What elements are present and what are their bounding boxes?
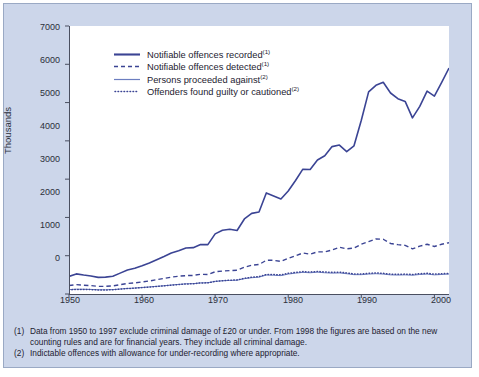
footnote-1-marker: (1) (14, 326, 30, 347)
y-tick-3000: 3000 (18, 155, 60, 164)
legend-item-offenders-guilty: Offenders found guilty or cautioned(2) (114, 86, 299, 99)
x-tick-1970: 1970 (198, 296, 238, 305)
dotted-line-swatch (114, 86, 140, 97)
figure-panel: Thousands 7000 6000 5000 4000 3000 2000 … (3, 3, 472, 368)
series-line-0 (69, 68, 449, 277)
y-tick-2000: 2000 (18, 188, 60, 197)
dashed-line-swatch (114, 61, 140, 72)
x-tick-1960: 1960 (124, 296, 164, 305)
series-line-3 (69, 271, 449, 290)
footnote-2-text: Indictable offences with allowance for u… (30, 348, 464, 359)
x-tick-1980: 1980 (273, 296, 313, 305)
legend-label-notifiable-detected: Notifiable offences detected(1) (147, 61, 269, 72)
y-axis-label: Thousands (2, 107, 13, 154)
y-tick-5000: 5000 (18, 89, 60, 98)
legend-item-notifiable-detected: Notifiable offences detected(1) (114, 61, 299, 74)
x-tick-2000: 2000 (421, 296, 461, 305)
footnotes: (1) Data from 1950 to 1997 exclude crimi… (14, 326, 464, 359)
footnote-2: (2) Indictable offences with allowance f… (14, 348, 464, 359)
footnote-1-text: Data from 1950 to 1997 exclude criminal … (30, 326, 464, 347)
solid-thin-line-swatch (114, 74, 140, 85)
x-tick-1990: 1990 (347, 296, 387, 305)
y-tick-6000: 6000 (18, 56, 60, 65)
footnote-1: (1) Data from 1950 to 1997 exclude crimi… (14, 326, 464, 347)
legend-label-offenders-guilty: Offenders found guilty or cautioned(2) (147, 86, 299, 97)
legend-label-notifiable-recorded: Notifiable offences recorded(1) (147, 49, 270, 60)
y-tick-4000: 4000 (18, 122, 60, 131)
legend-label-persons-proceeded: Persons proceeded against(2) (147, 74, 268, 85)
legend: Notifiable offences recorded(1) Notifiab… (114, 48, 299, 98)
legend-item-notifiable-recorded: Notifiable offences recorded(1) (114, 48, 299, 61)
series-layer (69, 68, 449, 290)
x-tick-1950: 1950 (50, 296, 90, 305)
legend-item-persons-proceeded: Persons proceeded against(2) (114, 73, 299, 86)
y-tick-7000: 7000 (18, 23, 60, 32)
y-tick-1000: 1000 (18, 221, 60, 230)
solid-thick-line-swatch (114, 49, 140, 60)
footnote-2-marker: (2) (14, 348, 30, 359)
series-line-1 (69, 239, 449, 286)
y-tick-0: 0 (18, 254, 60, 263)
